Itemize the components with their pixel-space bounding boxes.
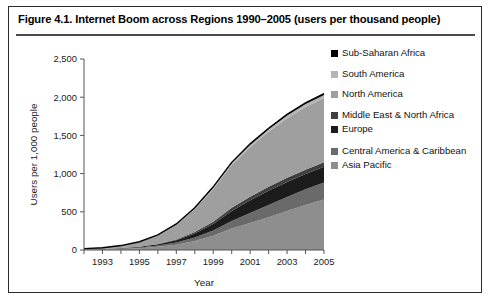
- legend-swatch-icon: [331, 71, 338, 78]
- x-axis-tick-label: 1997: [166, 256, 187, 267]
- legend-item-label: South America: [342, 68, 404, 80]
- legend-item-label: Central America & Caribbean: [342, 145, 466, 157]
- y-axis-tick-label: 0: [72, 244, 77, 255]
- legend-swatch-icon: [331, 50, 338, 57]
- x-axis-tick-label: 1999: [203, 256, 224, 267]
- x-axis-title: Year: [194, 277, 215, 288]
- legend-item-north-america[interactable]: North America: [331, 88, 481, 100]
- x-axis-tick-label: 1993: [92, 256, 113, 267]
- x-axis-tick-label: 2005: [314, 256, 335, 267]
- chart-legend: Sub-Saharan Africa South America North A…: [331, 47, 481, 173]
- x-axis-tick-label: 2003: [277, 256, 298, 267]
- legend-swatch-icon: [331, 148, 338, 155]
- legend-item-label: Europe: [342, 123, 373, 135]
- legend-item-label: Sub-Saharan Africa: [342, 47, 425, 59]
- legend-swatch-icon: [331, 91, 338, 98]
- legend-item-asia-pacific[interactable]: Asia Pacific: [331, 159, 481, 171]
- legend-item-central-america-caribbean[interactable]: Central America & Caribbean: [331, 145, 481, 157]
- legend-swatch-icon: [331, 112, 338, 119]
- y-axis-tick-label: 2,000: [54, 92, 77, 103]
- legend-swatch-icon: [331, 126, 338, 133]
- legend-item-label: Middle East & North Africa: [342, 109, 454, 121]
- legend-swatch-icon: [331, 162, 338, 169]
- y-axis-tick-label: 1,000: [54, 168, 77, 179]
- legend-item-middle-east-north-africa[interactable]: Middle East & North Africa: [331, 109, 481, 121]
- x-axis-tick-label: 1995: [129, 256, 150, 267]
- y-axis-tick-label: 500: [61, 206, 77, 217]
- y-axis-title: Users per 1,000 people: [28, 103, 39, 205]
- legend-item-south-america[interactable]: South America: [331, 68, 481, 80]
- y-axis-tick-label: 2,500: [54, 53, 77, 64]
- x-axis-tick-label: 2001: [240, 256, 261, 267]
- legend-item-label: Asia Pacific: [342, 159, 392, 171]
- legend-item-europe[interactable]: Europe: [331, 123, 481, 135]
- y-axis-tick-label: 1,500: [54, 130, 77, 141]
- legend-item-sub-saharan-africa[interactable]: Sub-Saharan Africa: [331, 47, 481, 59]
- legend-item-label: North America: [342, 88, 403, 100]
- figure-container: Figure 4.1. Internet Boom across Regions…: [8, 6, 482, 293]
